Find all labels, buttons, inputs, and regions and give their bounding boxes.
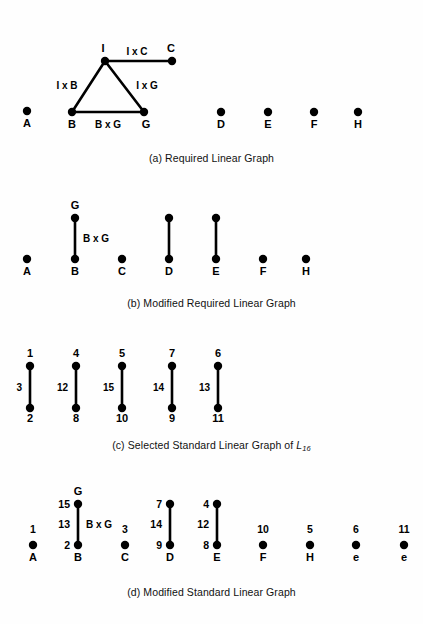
panel-c-edge-3-label: 3 (16, 382, 22, 393)
panel-d: B x G131412A1B2G15C3D97E84F10H5e6e11 (29, 485, 410, 563)
panel-d-node-H-label: H (306, 551, 314, 563)
panel-b-node-E-label: E (212, 265, 219, 277)
panel-a-node-G[interactable] (140, 108, 148, 116)
panel-b-node-G-label: G (71, 199, 80, 211)
panel-a-node-I[interactable] (101, 57, 109, 65)
panel-b-node-D-label: D (165, 265, 173, 277)
panel-b-node-C-label: C (118, 265, 126, 277)
panel-d-node-G-number: 15 (58, 498, 70, 510)
panel-a-node-D[interactable] (217, 108, 225, 116)
panel-c-node-node-10[interactable] (118, 404, 126, 412)
panel-d-node-G[interactable] (74, 500, 82, 508)
panel-c-node-node-2-label: 2 (27, 412, 33, 424)
panel-a: I x CI x BI x GB x GABGICDEFH (23, 42, 362, 130)
panel-d-node-C[interactable] (121, 541, 129, 549)
panel-a-node-H-label: H (354, 118, 362, 130)
panel-d-edge-B-G-label: B x G (86, 519, 112, 530)
panel-d-node-e1-number: 6 (353, 523, 359, 535)
panel-a-node-D-label: D (217, 118, 225, 130)
panel-a-node-H[interactable] (354, 108, 362, 116)
graph-drawing-canvas: I x CI x BI x GB x GABGICDEFHB x GABGCDE… (0, 0, 423, 624)
panel-c-node-node-1[interactable] (26, 362, 34, 370)
panel-a-node-C-label: C (167, 42, 175, 54)
panel-d-caption: (d) Modified Standard Linear Graph (0, 586, 423, 598)
panel-d-edge-B-G-number: 13 (58, 518, 70, 530)
panel-d-node-A[interactable] (29, 541, 37, 549)
panel-d-node-e1[interactable] (352, 541, 360, 549)
panel-c-caption-subscript: 16 (302, 444, 311, 453)
panel-c-node-node-9[interactable] (168, 404, 176, 412)
panel-c-node-node-4[interactable] (72, 362, 80, 370)
panel-d-node-e2-label: e (401, 551, 407, 563)
panel-c-node-node-5-label: 5 (119, 347, 125, 359)
panel-a-node-I-label: I (101, 42, 104, 54)
panel-c-node-node-8-label: 8 (73, 412, 79, 424)
panel-a-node-B-label: B (68, 118, 76, 130)
panel-d-node-G-label: G (74, 485, 83, 497)
panel-c-node-node-9-label: 9 (169, 412, 175, 424)
panel-d-node-B[interactable] (74, 541, 82, 549)
panel-a-node-E[interactable] (264, 108, 272, 116)
panel-c-caption-prefix: (c) Selected Standard Linear Graph of (112, 439, 296, 451)
panel-b-node-E[interactable] (212, 255, 220, 263)
panel-c-node-node-6-label: 6 (215, 347, 221, 359)
panel-c-node-node-8[interactable] (72, 404, 80, 412)
panel-b-node-G[interactable] (71, 214, 79, 222)
panel-b-node-C[interactable] (118, 255, 126, 263)
panel-a-node-A[interactable] (23, 107, 31, 115)
panel-b-node-E-top[interactable] (212, 214, 220, 222)
panel-d-edge-D-number: 14 (150, 518, 162, 530)
panel-a-edge-I-B-label: I x B (56, 80, 77, 91)
panel-d-node-D-top-number: 7 (156, 498, 162, 510)
panel-d-node-H[interactable] (306, 541, 314, 549)
panel-b: B x GABGCDEFH (23, 199, 310, 277)
panel-d-node-A-number: 1 (30, 523, 36, 535)
panel-b-node-B-label: B (71, 265, 79, 277)
panel-a-node-B[interactable] (68, 108, 76, 116)
panel-d-node-F-number: 10 (257, 523, 269, 535)
panel-d-node-D-top[interactable] (166, 500, 174, 508)
panel-d-node-D-label: D (166, 551, 174, 563)
panel-b-node-D[interactable] (165, 255, 173, 263)
panel-d-node-F[interactable] (259, 541, 267, 549)
panel-d-node-e2[interactable] (400, 541, 408, 549)
panel-b-node-F-label: F (260, 265, 267, 277)
panel-c-node-node-11[interactable] (214, 404, 222, 412)
panel-a-edge-I-C-label: I x C (126, 46, 147, 57)
panel-d-node-D-number: 9 (156, 539, 162, 551)
panel-a-node-C[interactable] (168, 57, 176, 65)
linear-graph-figure: I x CI x BI x GB x GABGICDEFHB x GABGCDE… (0, 0, 423, 624)
panel-c-node-node-2[interactable] (26, 404, 34, 412)
panel-d-node-E-top[interactable] (213, 500, 221, 508)
panel-d-node-e2-number: 11 (398, 523, 409, 535)
panel-b-caption: (b) Modified Required Linear Graph (0, 297, 423, 309)
panel-b-node-H[interactable] (302, 255, 310, 263)
panel-c-node-node-11-label: 11 (212, 412, 224, 424)
panel-d-node-B-label: B (74, 551, 82, 563)
panel-b-node-F[interactable] (259, 255, 267, 263)
panel-c-edge-15-label: 15 (103, 382, 115, 393)
panel-d-node-E[interactable] (213, 541, 221, 549)
panel-d-node-H-number: 5 (307, 523, 313, 535)
panel-a-node-G-label: G (142, 118, 151, 130)
panel-c-node-node-4-label: 4 (73, 347, 80, 359)
panel-c-node-node-5[interactable] (118, 362, 126, 370)
panel-c-node-node-10-label: 10 (116, 412, 128, 424)
panel-a-node-E-label: E (264, 118, 271, 130)
panel-d-node-A-label: A (29, 551, 37, 563)
panel-c-edge-13-label: 13 (199, 382, 211, 393)
panel-c-edge-14-label: 14 (153, 382, 165, 393)
panel-c-node-node-7-label: 7 (169, 347, 175, 359)
panel-c-node-node-6[interactable] (214, 362, 222, 370)
panel-d-node-F-label: F (260, 551, 267, 563)
panel-d-node-D[interactable] (166, 541, 174, 549)
panel-b-node-A-label: A (23, 265, 31, 277)
panel-c-node-node-1-label: 1 (27, 347, 33, 359)
panel-d-node-C-number: 3 (122, 523, 128, 535)
panel-a-node-F-label: F (311, 118, 318, 130)
panel-b-node-B[interactable] (71, 255, 79, 263)
panel-c-node-node-7[interactable] (168, 362, 176, 370)
panel-a-node-F[interactable] (310, 108, 318, 116)
panel-b-node-A[interactable] (23, 255, 31, 263)
panel-b-node-D-top[interactable] (165, 214, 173, 222)
